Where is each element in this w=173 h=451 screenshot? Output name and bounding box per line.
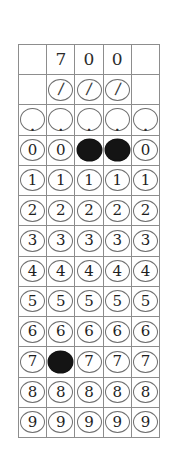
bubble-label: 6 — [84, 324, 94, 339]
digit-bubble-4-col-2[interactable]: 4 — [48, 260, 73, 282]
bubble-label: 2 — [112, 203, 122, 218]
digit-5-cell-2: 5 — [47, 287, 75, 316]
digit-bubble-5-col-3[interactable]: 5 — [77, 290, 102, 312]
digit-bubble-4-col-4[interactable]: 4 — [105, 260, 130, 282]
digit-bubble-2-col-5[interactable]: 2 — [133, 200, 158, 222]
digit-bubble-3-col-5[interactable]: 3 — [133, 230, 158, 252]
fraction-bar-bubble-col-4[interactable]: / — [105, 79, 130, 101]
digit-4-cell-1: 4 — [19, 257, 47, 286]
digit-bubble-3-col-1[interactable]: 3 — [20, 230, 45, 252]
digit-bubble-8-col-3[interactable]: 8 — [77, 381, 102, 403]
decimal-point-bubble-col-1[interactable]: . — [20, 108, 45, 131]
answer-cell-5 — [132, 45, 159, 74]
digit-9-cell-4: 9 — [104, 408, 132, 437]
decimal-point-bubble-col-3[interactable]: . — [77, 108, 102, 131]
digit-7-cell-5: 7 — [132, 347, 159, 376]
digit-bubble-9-col-4[interactable]: 9 — [105, 411, 130, 433]
digit-bubble-3-col-4[interactable]: 3 — [105, 230, 130, 252]
bubble-label: / — [114, 80, 122, 97]
digit-bubble-9-col-5[interactable]: 9 — [133, 411, 158, 433]
digit-bubble-7-col-2[interactable]: 7 — [48, 351, 73, 373]
digit-3-cell-3: 3 — [75, 226, 103, 255]
digit-row-4: 44444 — [19, 257, 159, 287]
digit-8-cell-2: 8 — [47, 378, 75, 407]
bubble-label: 4 — [28, 263, 38, 278]
digit-6-cell-1: 6 — [19, 317, 47, 346]
digit-bubble-4-col-3[interactable]: 4 — [77, 260, 102, 282]
digit-bubble-6-col-2[interactable]: 6 — [48, 321, 73, 343]
digit-bubble-7-col-3[interactable]: 7 — [77, 351, 102, 373]
digit-6-cell-5: 6 — [132, 317, 159, 346]
bubble-label: 6 — [141, 324, 151, 339]
digit-bubble-1-col-4[interactable]: 1 — [105, 169, 130, 191]
digit-bubble-9-col-3[interactable]: 9 — [77, 411, 102, 433]
bubble-label: 5 — [28, 293, 38, 308]
digit-bubble-0-col-2[interactable]: 0 — [48, 139, 73, 161]
digit-bubble-0-col-5[interactable]: 0 — [133, 139, 158, 161]
digit-row-9: 99999 — [19, 408, 159, 437]
digit-bubble-3-col-3[interactable]: 3 — [77, 230, 102, 252]
answer-cell-4: 0 — [104, 45, 132, 74]
digit-bubble-7-col-4[interactable]: 7 — [105, 351, 130, 373]
bubble-label: 4 — [56, 263, 66, 278]
decimal-point-bubble-col-2[interactable]: . — [48, 108, 73, 131]
bubble-label: 3 — [141, 233, 151, 248]
fraction-bar-row: /// — [19, 75, 159, 105]
digit-row-8: 88888 — [19, 378, 159, 408]
digit-bubble-8-col-5[interactable]: 8 — [133, 381, 158, 403]
digit-2-cell-5: 2 — [132, 196, 159, 225]
digit-bubble-9-col-2[interactable]: 9 — [48, 411, 73, 433]
fraction-bar-row-cell-2: / — [47, 75, 75, 104]
digit-bubble-9-col-1[interactable]: 9 — [20, 411, 45, 433]
bubble-label: 0 — [56, 142, 66, 157]
fraction-bar-row-cell-5 — [132, 75, 159, 104]
digit-bubble-1-col-2[interactable]: 1 — [48, 169, 73, 191]
digit-bubble-0-col-3[interactable]: 0 — [77, 139, 102, 161]
digit-bubble-8-col-2[interactable]: 8 — [48, 381, 73, 403]
fraction-bar-bubble-col-2[interactable]: / — [48, 79, 73, 101]
digit-bubble-6-col-3[interactable]: 6 — [77, 321, 102, 343]
answer-digit-col-2: 7 — [55, 51, 66, 68]
digit-bubble-2-col-3[interactable]: 2 — [77, 200, 102, 222]
digit-bubble-8-col-1[interactable]: 8 — [20, 381, 45, 403]
digit-1-cell-5: 1 — [132, 166, 159, 195]
fraction-bar-row-cell-4: / — [104, 75, 132, 104]
digit-row-0: 00000 — [19, 136, 159, 166]
digit-bubble-1-col-1[interactable]: 1 — [20, 169, 45, 191]
digit-bubble-5-col-2[interactable]: 5 — [48, 290, 73, 312]
decimal-point-bubble-col-4[interactable]: . — [105, 108, 130, 131]
digit-3-cell-4: 3 — [104, 226, 132, 255]
bubble-label: 6 — [56, 324, 66, 339]
digit-bubble-8-col-4[interactable]: 8 — [105, 381, 130, 403]
digit-bubble-2-col-1[interactable]: 2 — [20, 200, 45, 222]
digit-bubble-1-col-5[interactable]: 1 — [133, 169, 158, 191]
digit-row-1: 11111 — [19, 166, 159, 196]
fraction-bar-bubble-col-3[interactable]: / — [77, 79, 102, 101]
digit-bubble-7-col-1[interactable]: 7 — [20, 351, 45, 373]
digit-bubble-6-col-1[interactable]: 6 — [20, 321, 45, 343]
digit-bubble-0-col-1[interactable]: 0 — [20, 139, 45, 161]
digit-bubble-3-col-2[interactable]: 3 — [48, 230, 73, 252]
fraction-bar-row-cell-3: / — [75, 75, 103, 104]
digit-7-cell-2: 7 — [47, 347, 75, 376]
digit-0-cell-5: 0 — [132, 136, 159, 165]
bubble-label: 1 — [112, 172, 122, 187]
digit-bubble-0-col-4[interactable]: 0 — [105, 139, 130, 161]
digit-bubble-6-col-5[interactable]: 6 — [133, 321, 158, 343]
decimal-point-row-cell-5: . — [132, 105, 159, 134]
digit-2-cell-1: 2 — [19, 196, 47, 225]
digit-bubble-5-col-5[interactable]: 5 — [133, 290, 158, 312]
digit-bubble-5-col-4[interactable]: 5 — [105, 290, 130, 312]
digit-bubble-4-col-1[interactable]: 4 — [20, 260, 45, 282]
digit-row-7: 77777 — [19, 347, 159, 377]
digit-7-cell-3: 7 — [75, 347, 103, 376]
digit-bubble-2-col-2[interactable]: 2 — [48, 200, 73, 222]
digit-bubble-4-col-5[interactable]: 4 — [133, 260, 158, 282]
digit-bubble-5-col-1[interactable]: 5 — [20, 290, 45, 312]
digit-bubble-2-col-4[interactable]: 2 — [105, 200, 130, 222]
bubble-label: 3 — [112, 233, 122, 248]
digit-bubble-6-col-4[interactable]: 6 — [105, 321, 130, 343]
digit-bubble-7-col-5[interactable]: 7 — [133, 351, 158, 373]
digit-bubble-1-col-3[interactable]: 1 — [77, 169, 102, 191]
decimal-point-bubble-col-5[interactable]: . — [133, 108, 158, 131]
